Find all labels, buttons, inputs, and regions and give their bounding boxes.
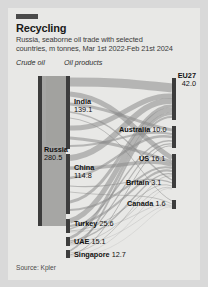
node-australia [172, 126, 176, 148]
node-label-uae: UAE 15.1 [74, 238, 106, 246]
node-us [172, 154, 176, 180]
node-label-india: India 139.1 [74, 98, 92, 114]
chart-card: Recycling Russia, seaborne oil trade wit… [8, 8, 200, 280]
node-china [66, 154, 70, 214]
column-header-oil-products: Oil products [64, 58, 102, 67]
subtitle-line-1: Russia, seaborne oil trade with selected [16, 35, 143, 44]
node-uae [66, 237, 70, 246]
node-label-eu27: EU27 42.0 [151, 72, 196, 88]
subtitle-line-2: countries, m tonnes, Mar 1st 2022-Feb 21… [16, 44, 173, 53]
node-india [66, 76, 70, 149]
node-label-china: China 114.8 [74, 164, 94, 180]
source-attribution: Source: Kpler [16, 264, 56, 271]
node-label-britain: Britain 3.1 [126, 179, 161, 187]
node-britain [172, 178, 176, 188]
node-label-singapore: Singapore 12.7 [74, 251, 126, 259]
node-singapore [66, 250, 70, 258]
node-label-australia: Australia 10.0 [119, 126, 166, 134]
node-turkey [66, 219, 70, 233]
node-canada [172, 200, 176, 209]
page-title: Recycling [16, 22, 66, 34]
accent-bar [16, 14, 38, 19]
node-label-russia: Russia 280.5 [44, 146, 68, 162]
node-label-turkey: Turkey 25.6 [74, 220, 114, 228]
node-label-canada: Canada 1.6 [127, 200, 166, 208]
column-header-crude-oil: Crude oil [16, 58, 45, 67]
node-russia [38, 76, 42, 226]
node-label-us: US 16.1 [139, 155, 165, 163]
